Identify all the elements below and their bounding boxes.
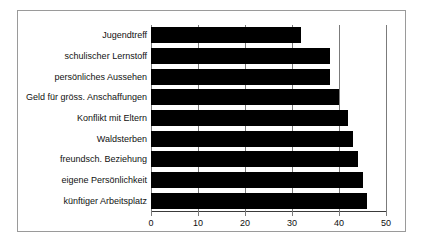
plot-area: Jugendtreffschulischer Lernstoffpersönli… <box>151 25 386 211</box>
bar-row: künftiger Arbeitsplatz <box>151 193 386 209</box>
gridline-x-50 <box>386 25 387 211</box>
bar-row: Geld für gröss. Anschaffungen <box>151 89 386 105</box>
category-label: Jugendtreff <box>102 30 147 41</box>
bar-row: Konflikt mit Eltern <box>151 110 386 126</box>
bar-row: schulischer Lernstoff <box>151 48 386 64</box>
x-tick-10 <box>198 211 199 216</box>
bar <box>151 89 339 105</box>
x-tick-label-50: 50 <box>381 217 391 229</box>
bar <box>151 69 330 85</box>
category-label: eigene Persönlichkeit <box>61 175 147 186</box>
chart-frame: Jugendtreffschulischer Lernstoffpersönli… <box>17 10 406 232</box>
x-tick-40 <box>339 211 340 216</box>
category-label: freundsch. Beziehung <box>60 154 147 165</box>
x-axis-line <box>151 211 387 212</box>
x-tick-label-10: 10 <box>193 217 203 229</box>
category-label: schulischer Lernstoff <box>65 51 147 62</box>
bar <box>151 27 301 43</box>
x-tick-label-0: 0 <box>148 217 153 229</box>
bar <box>151 110 348 126</box>
x-tick-label-40: 40 <box>334 217 344 229</box>
x-tick-50 <box>386 211 387 216</box>
bar-row: eigene Persönlichkeit <box>151 172 386 188</box>
bar <box>151 151 358 167</box>
category-label: persönliches Aussehen <box>54 71 147 82</box>
x-tick-30 <box>292 211 293 216</box>
x-tick-label-20: 20 <box>240 217 250 229</box>
bar-row: Jugendtreff <box>151 27 386 43</box>
bar <box>151 193 367 209</box>
bar-row: persönliches Aussehen <box>151 69 386 85</box>
bar-row: Waldsterben <box>151 131 386 147</box>
bar <box>151 48 330 64</box>
category-label: Waldsterben <box>97 133 147 144</box>
x-tick-0 <box>151 211 152 216</box>
x-tick-label-30: 30 <box>287 217 297 229</box>
category-label: Geld für gröss. Anschaffungen <box>26 92 147 103</box>
bar <box>151 172 363 188</box>
category-label: Konflikt mit Eltern <box>77 113 147 124</box>
bar <box>151 131 353 147</box>
category-label: künftiger Arbeitsplatz <box>63 195 147 206</box>
x-tick-20 <box>245 211 246 216</box>
bar-row: freundsch. Beziehung <box>151 151 386 167</box>
